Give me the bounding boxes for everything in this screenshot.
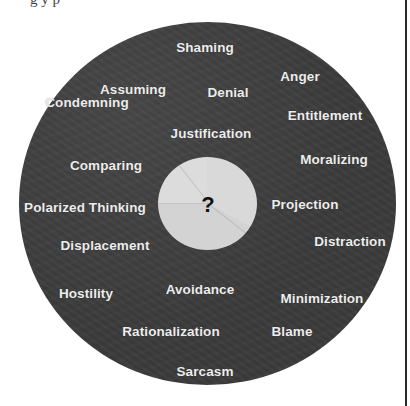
ring-label-displacement: Displacement [61,238,150,253]
ring-label-shaming: Shaming [176,40,234,55]
ring-label-distraction: Distraction [314,234,386,249]
clipped-caption-text: g y p [30,0,60,8]
question-mark-icon: ? [199,194,217,216]
ring-label-projection: Projection [271,197,338,212]
ring-label-blame: Blame [271,324,312,339]
ring-label-sarcasm: Sarcasm [177,364,234,379]
ring-label-moralizing: Moralizing [300,152,368,167]
ring-label-comparing: Comparing [70,158,142,173]
ring-label-avoidance: Avoidance [166,282,235,297]
ring-label-minimization: Minimization [281,291,364,306]
page-border-line [405,0,407,406]
ring-label-polarized-thinking: Polarized Thinking [24,200,146,215]
ring-label-justification: Justification [171,126,252,141]
ring-label-rationalization: Rationalization [122,324,220,339]
ring-label-hostility: Hostility [59,286,113,301]
ring-label-anger: Anger [280,69,320,84]
ring-label-condemning: Condemning [45,95,129,110]
ring-label-denial: Denial [207,85,248,100]
ring-label-entitlement: Entitlement [288,108,363,123]
